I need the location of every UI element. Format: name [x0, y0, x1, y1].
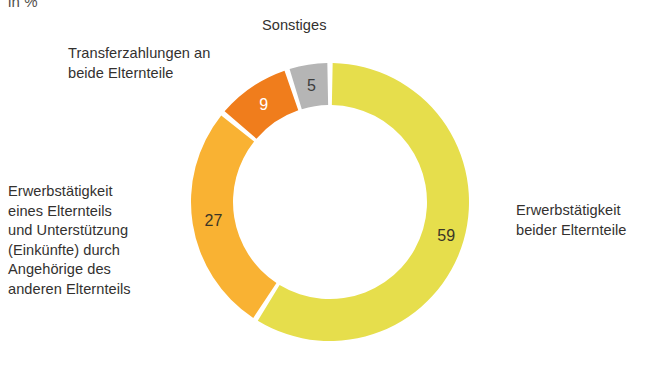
- category-label-transferzahlungen: Transferzahlungen anbeide Elternteile: [68, 44, 298, 83]
- category-label-sonstiges: Sonstiges: [262, 16, 327, 36]
- value-label-9: 9: [259, 96, 268, 113]
- value-label-59: 59: [437, 227, 455, 244]
- donut-ring: [191, 63, 469, 341]
- chart-canvas: in % 592795 Sonstiges Transferzahlungen …: [0, 0, 662, 373]
- value-label-27: 27: [205, 212, 223, 229]
- value-label-5: 5: [307, 77, 316, 94]
- category-label-erwerbstaetigkeit-beider-elternteile: Erwerbstätigkeitbeider Elternteile: [516, 201, 662, 240]
- category-label-erwerbstaetigkeit-eines-elternteils: Erwerbstätigkeiteines Elternteilsund Unt…: [8, 182, 188, 299]
